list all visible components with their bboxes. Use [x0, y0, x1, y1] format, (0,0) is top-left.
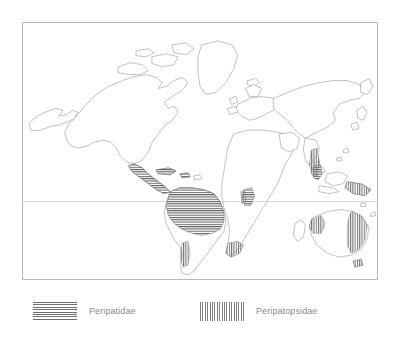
legend-label-peripatopsidae: Peripatopsidae: [256, 306, 317, 316]
map-frame: [22, 22, 378, 280]
legend-entry-peripatidae: Peripatidae: [33, 296, 136, 326]
world-map: [23, 23, 377, 279]
coastlines: [29, 41, 377, 275]
legend-swatch-vertical-hatch: [200, 302, 244, 321]
map-legend: Peripatidae Peripatopsidae: [0, 296, 400, 326]
distribution-map-figure: Peripatidae Peripatopsidae: [0, 0, 400, 340]
legend-entry-peripatopsidae: Peripatopsidae: [200, 296, 317, 326]
legend-label-peripatidae: Peripatidae: [89, 306, 136, 316]
legend-swatch-horizontal-hatch: [33, 302, 77, 321]
